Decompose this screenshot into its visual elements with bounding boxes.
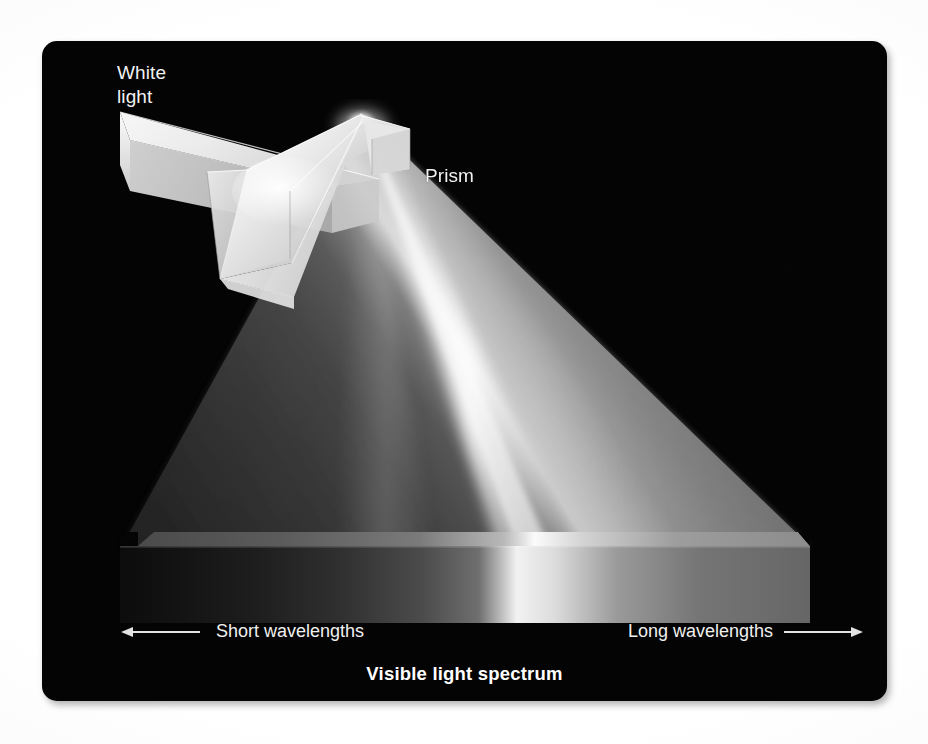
figure-caption: Visible light spectrum [42,663,887,685]
figure-root: Whitelight Prism Short wavelengths Long … [0,0,928,744]
label-long-wavelengths: Long wavelengths [628,621,773,641]
illustration-panel: Whitelight Prism Short wavelengths Long … [42,41,887,701]
white-light-line-1: White [117,62,166,83]
prism-dispersion-drawing [42,41,887,701]
illustration-stage: Whitelight Prism Short wavelengths Long … [42,41,887,701]
fan-bright-ridge [338,115,732,546]
spectrum-bar [120,532,810,623]
label-prism: Prism [425,164,474,188]
label-white-light: Whitelight [117,61,166,109]
arrow-right-icon [784,631,852,633]
white-light-line-2: light [117,86,152,107]
label-short-wavelengths: Short wavelengths [216,621,364,641]
arrow-left-icon [132,631,200,633]
